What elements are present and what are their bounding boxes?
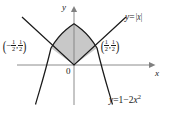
axis-label-y: y xyxy=(62,3,66,12)
equation-label-parabola: y=1−2x2 xyxy=(109,96,141,106)
origin-label: 0 xyxy=(66,67,71,76)
point-label-left: (−12,12) xyxy=(2,39,27,54)
equation-abs-equals: = xyxy=(129,12,134,22)
equation-par-exponent: 2 xyxy=(138,93,141,100)
y-axis-arrowhead xyxy=(71,6,77,12)
equation-abs-rhs: |x| xyxy=(135,13,141,23)
point-left-close-paren: ) xyxy=(23,39,27,54)
equation-label-absolute-value: y=|x| xyxy=(125,13,143,23)
point-right-x-fraction: 12 xyxy=(104,39,108,53)
point-right-close-paren: ) xyxy=(116,39,120,54)
point-left-x-sign: − xyxy=(6,40,11,50)
point-left-open-paren: ( xyxy=(2,39,6,54)
plot-svg xyxy=(0,0,171,117)
figure-container: y x 0 y=|x| y=1−2x2 (−12,12) (12,12) xyxy=(0,0,171,117)
point-right-open-paren: ( xyxy=(100,39,104,54)
point-label-right: (12,12) xyxy=(100,39,120,54)
axis-label-x: x xyxy=(155,69,159,78)
point-left-x-fraction: 12 xyxy=(11,39,15,53)
